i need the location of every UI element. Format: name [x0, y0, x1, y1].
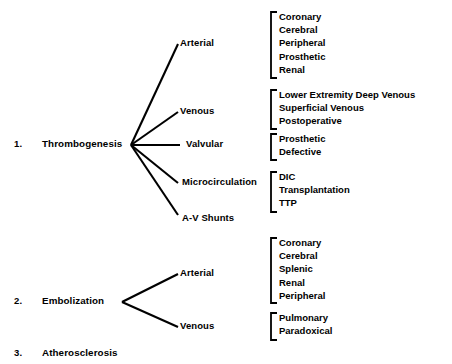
branch-label-valvular: Valvular [186, 138, 223, 151]
leaf-item: Coronary [279, 10, 325, 23]
leaf-item: DIC [279, 170, 350, 183]
leaf-item: Postoperative [279, 114, 415, 127]
section-number-1: 1. [14, 138, 22, 151]
section-number-3: 3. [14, 347, 22, 360]
bracket-embo-arterial [271, 238, 277, 303]
leaf-item: Peripheral [279, 36, 325, 49]
leaf-item: Renal [279, 63, 325, 76]
leaf-item: Prosthetic [279, 50, 325, 63]
leaf-list-valvular: Prosthetic Defective [279, 132, 325, 158]
leaf-list-thrombo-venous: Lower Extremity Deep Venous Superficial … [279, 88, 415, 128]
leaf-item: Defective [279, 145, 325, 158]
leaf-item: Prosthetic [279, 132, 325, 145]
connector-thrombogenesis-arterial [131, 44, 178, 145]
connector-embolization-venous [122, 302, 178, 327]
connector-embolization-arterial [122, 274, 178, 302]
branch-label-av-shunts: A-V Shunts [182, 212, 234, 225]
leaf-item: Transplantation [279, 183, 350, 196]
leaf-item: Pulmonary [279, 311, 332, 324]
leaf-item: Lower Extremity Deep Venous [279, 88, 415, 101]
branch-label-arterial-thrombo: Arterial [180, 37, 214, 50]
bracket-thrombo-arterial [271, 12, 277, 78]
leaf-list-embo-arterial: Coronary Cerebral Splenic Renal Peripher… [279, 236, 325, 302]
leaf-list-thrombo-arterial: Coronary Cerebral Peripheral Prosthetic … [279, 10, 325, 76]
bracket-embo-venous [271, 313, 277, 340]
bracket-thrombo-valvular [271, 134, 277, 160]
leaf-item: Renal [279, 276, 325, 289]
leaf-list-microcirculation: DIC Transplantation TTP [279, 170, 350, 210]
section-label-thrombogenesis: Thrombogenesis [42, 138, 122, 151]
leaf-item: Cerebral [279, 23, 325, 36]
branch-label-venous-thrombo: Venous [180, 105, 214, 118]
leaf-item: Cerebral [279, 249, 325, 262]
leaf-item: Peripheral [279, 289, 325, 302]
section-number-2: 2. [14, 295, 22, 308]
leaf-item: Paradoxical [279, 324, 332, 337]
leaf-item: Splenic [279, 262, 325, 275]
bracket-thrombo-microcirculation [271, 172, 277, 212]
bracket-thrombo-venous [271, 90, 277, 129]
connector-thrombogenesis-microcirculation [131, 145, 178, 183]
connector-thrombogenesis-avshunts [131, 145, 178, 215]
leaf-item: Coronary [279, 236, 325, 249]
section-label-embolization: Embolization [42, 295, 104, 308]
section-label-atherosclerosis: Atherosclerosis [42, 347, 118, 360]
branch-label-venous-embo: Venous [180, 320, 214, 333]
leaf-item: Superficial Venous [279, 101, 415, 114]
leaf-list-embo-venous: Pulmonary Paradoxical [279, 311, 332, 337]
branch-label-arterial-embo: Arterial [180, 267, 214, 280]
leaf-item: TTP [279, 196, 350, 209]
branch-label-microcirculation: Microcirculation [182, 176, 257, 189]
tree-diagram: 1. Thrombogenesis Arterial Venous Valvul… [0, 0, 452, 364]
